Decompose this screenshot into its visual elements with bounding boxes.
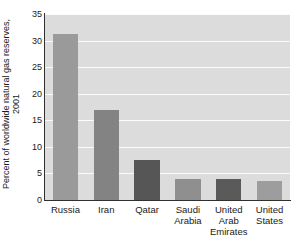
x-axis-tick-label-line: United	[249, 204, 290, 215]
x-axis-tick-label-line: Arab	[208, 215, 249, 226]
x-axis-tick-label: UnitedArabEmirates	[208, 204, 249, 237]
bar-chart: Percent of worldwide natural gas reserve…	[0, 0, 295, 250]
y-axis-tick-labels: 05101520253035	[20, 0, 42, 210]
bar	[216, 179, 241, 200]
x-axis-tick-labels: RussiaIranQatarSaudiArabiaUnitedArabEmir…	[45, 204, 290, 250]
y-axis-tick-label: 35	[32, 9, 42, 19]
y-axis-title: Percent of worldwide natural gas reserve…	[0, 0, 22, 208]
x-axis-tick-label-line: Russia	[45, 204, 86, 215]
x-axis-tick-label-line: Saudi	[168, 204, 209, 215]
x-axis-tick-label-line: Arabia	[168, 215, 209, 226]
x-axis-tick-label: Qatar	[127, 204, 168, 215]
x-axis-tick-label-line: Emirates	[208, 226, 249, 237]
x-axis-tick-label-line: States	[249, 215, 290, 226]
plot-area	[45, 14, 290, 200]
x-axis-tick-label: SaudiArabia	[168, 204, 209, 226]
x-axis-tick-label: Russia	[45, 204, 86, 215]
y-axis-tick-label: 20	[32, 89, 42, 99]
y-axis-title-line-1: Percent of worldwide natural gas reserve…	[1, 19, 11, 189]
y-axis-tick-label: 10	[32, 142, 42, 152]
x-axis-tick-label-line: United	[208, 204, 249, 215]
bar	[257, 181, 282, 200]
bar	[94, 110, 119, 200]
bar	[134, 160, 159, 200]
x-axis-tick-label-line: Iran	[86, 204, 127, 215]
y-axis-tick-label: 5	[37, 168, 42, 178]
x-axis-line	[44, 200, 291, 201]
bar	[175, 179, 200, 200]
y-axis-tick-label: 0	[37, 195, 42, 205]
y-axis-line	[44, 13, 45, 201]
x-axis-tick-label: UnitedStates	[249, 204, 290, 226]
y-axis-tick-label: 15	[32, 115, 42, 125]
x-axis-tick-label-line: Qatar	[127, 204, 168, 215]
bars-layer	[45, 14, 290, 200]
x-axis-tick-label: Iran	[86, 204, 127, 215]
y-axis-tick-label: 30	[32, 36, 42, 46]
y-axis-tick-label: 25	[32, 62, 42, 72]
bar	[53, 34, 78, 200]
